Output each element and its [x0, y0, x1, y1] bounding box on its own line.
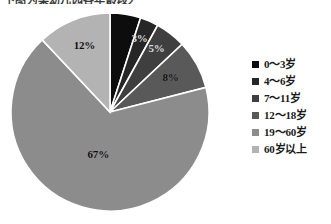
- legend-item-label: 19～60岁: [264, 127, 307, 138]
- legend-item[interactable]: 19～60岁: [252, 124, 331, 141]
- pie-slice-group: [11, 13, 209, 211]
- legend-swatch-icon: [252, 129, 259, 136]
- legend-item-label: 12～18岁: [264, 110, 307, 121]
- pie-chart-svg: [0, 0, 225, 224]
- legend-item-label: 0～3岁: [264, 59, 296, 70]
- legend-swatch-icon: [252, 95, 259, 102]
- legend-swatch-icon: [252, 146, 259, 153]
- pie-chart-plot-area: 3%5%8%67%12%: [0, 0, 225, 224]
- pie-slice-label: 8%: [162, 71, 178, 83]
- pie-slice-label: 5%: [149, 42, 165, 54]
- legend-swatch-icon: [252, 61, 259, 68]
- legend-item[interactable]: 0～3岁: [252, 56, 331, 73]
- legend-item[interactable]: 12～18岁: [252, 107, 331, 124]
- pie-slice-label: 67%: [88, 148, 109, 160]
- legend-item-label: 60岁以上: [264, 144, 307, 155]
- pie-slice-label: 12%: [74, 39, 95, 51]
- legend-swatch-icon: [252, 78, 259, 85]
- legend-item-label: 4～6岁: [264, 76, 296, 87]
- legend-item[interactable]: 4～6岁: [252, 73, 331, 90]
- legend-swatch-icon: [252, 112, 259, 119]
- chart-legend: 0～3岁4～6岁7～11岁12～18岁19～60岁60岁以上: [252, 56, 331, 158]
- pie-slice-label: 3%: [131, 32, 147, 44]
- legend-item[interactable]: 60岁以上: [252, 141, 331, 158]
- legend-item-label: 7～11岁: [264, 93, 301, 104]
- legend-item[interactable]: 7～11岁: [252, 90, 331, 107]
- pie-chart-figure: 下图为某幼儿园各年龄段人数比例： 3%5%8%67%12% 0～3岁4～6岁7～…: [0, 0, 331, 224]
